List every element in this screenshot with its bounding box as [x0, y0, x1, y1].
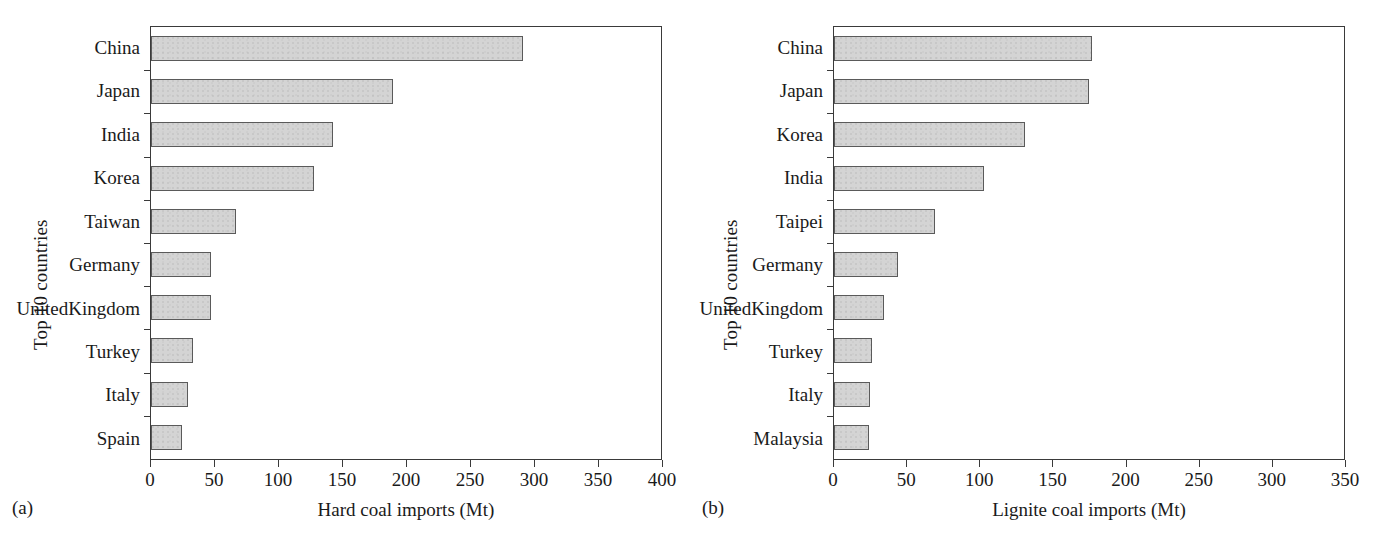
bar-row [834, 416, 1344, 459]
panel-a-bars [151, 27, 661, 459]
bar-india [151, 122, 333, 147]
x-axis-tick [1052, 460, 1053, 467]
figure-two-panel-bar-charts: Top 10 countries ChinaJapanIndiaKoreaTai… [0, 0, 1387, 550]
x-axis-tick-label: 0 [828, 469, 838, 491]
bar-row [151, 243, 661, 286]
category-label-japan: Japan [0, 69, 150, 112]
x-axis-tick-label: 250 [1184, 469, 1213, 491]
category-label-malaysia: Malaysia [683, 417, 833, 460]
x-axis-tick [833, 460, 834, 467]
x-axis-tick-label: 250 [456, 469, 485, 491]
x-axis-tick [278, 460, 279, 467]
bar-row [834, 70, 1344, 113]
panel-b-x-axis-title: Lignite coal imports (Mt) [833, 499, 1345, 521]
y-axis-tick [144, 373, 151, 374]
category-label-korea: Korea [683, 113, 833, 156]
bar-japan [151, 79, 393, 104]
x-axis-tick-label: 0 [145, 469, 155, 491]
bar-row [151, 157, 661, 200]
x-axis-tick-label: 400 [648, 469, 677, 491]
y-axis-tick [827, 113, 834, 114]
bar-japan [834, 79, 1089, 104]
y-axis-tick [827, 286, 834, 287]
x-axis-tick [470, 460, 471, 467]
bar-row [834, 200, 1344, 243]
bar-germany [151, 252, 211, 277]
y-axis-tick [144, 157, 151, 158]
panel-a-x-axis-title: Hard coal imports (Mt) [150, 499, 662, 521]
category-label-china: China [0, 26, 150, 69]
bar-china [834, 36, 1092, 61]
bar-korea [834, 122, 1025, 147]
y-axis-tick [827, 329, 834, 330]
bar-row [151, 373, 661, 416]
bar-row [151, 70, 661, 113]
x-axis-tick-label: 200 [392, 469, 421, 491]
y-axis-tick [827, 157, 834, 158]
bar-united-kingdom [151, 295, 211, 320]
x-axis-tick [1345, 460, 1346, 467]
category-label-united-kingdom: UnitedKingdom [0, 286, 150, 329]
category-label-taiwan: Taiwan [0, 200, 150, 243]
panel-a-x-axis-ticks: 050100150200250300350400 [150, 460, 662, 500]
x-axis-tick [406, 460, 407, 467]
category-label-japan: Japan [683, 69, 833, 112]
bar-taiwan [151, 209, 236, 234]
category-label-spain: Spain [0, 417, 150, 460]
category-label-turkey: Turkey [683, 330, 833, 373]
category-label-china: China [683, 26, 833, 69]
panel-b-x-axis-ticks: 050100150200250300350 [833, 460, 1345, 500]
y-axis-tick [144, 416, 151, 417]
category-label-korea: Korea [0, 156, 150, 199]
bar-turkey [151, 338, 193, 363]
x-axis-tick [1199, 460, 1200, 467]
x-axis-tick-label: 300 [520, 469, 549, 491]
bar-row [151, 113, 661, 156]
y-axis-tick [827, 373, 834, 374]
x-axis-tick-label: 350 [1331, 469, 1360, 491]
bar-row [834, 329, 1344, 372]
panel-a-plot-area [150, 26, 662, 460]
panel-a-tag: (a) [12, 497, 33, 519]
bar-row [834, 113, 1344, 156]
bar-row [834, 243, 1344, 286]
bar-turkey [834, 338, 872, 363]
y-axis-tick [144, 329, 151, 330]
bar-korea [151, 166, 314, 191]
panel-a-category-labels: ChinaJapanIndiaKoreaTaiwanGermanyUnitedK… [0, 26, 150, 460]
x-axis-tick-label: 150 [328, 469, 357, 491]
category-label-turkey: Turkey [0, 330, 150, 373]
y-axis-tick [144, 70, 151, 71]
y-axis-tick [144, 243, 151, 244]
category-label-india: India [683, 156, 833, 199]
bar-row [151, 416, 661, 459]
x-axis-tick [979, 460, 980, 467]
y-axis-tick [827, 200, 834, 201]
y-axis-tick [827, 416, 834, 417]
x-axis-tick-label: 150 [1038, 469, 1067, 491]
x-axis-tick [1126, 460, 1127, 467]
bar-india [834, 166, 984, 191]
bar-china [151, 36, 523, 61]
bar-italy [834, 382, 870, 407]
x-axis-tick-label: 300 [1258, 469, 1287, 491]
category-label-india: India [0, 113, 150, 156]
y-axis-tick [144, 200, 151, 201]
x-axis-tick-label: 100 [965, 469, 994, 491]
bar-germany [834, 252, 898, 277]
category-label-italy: Italy [0, 373, 150, 416]
category-label-italy: Italy [683, 373, 833, 416]
bar-row [151, 27, 661, 70]
x-axis-tick-label: 50 [897, 469, 916, 491]
y-axis-tick [827, 70, 834, 71]
y-axis-tick [144, 113, 151, 114]
panel-b-lignite-coal-imports: Top 10 countries ChinaJapanKoreaIndiaTai… [694, 0, 1387, 550]
x-axis-tick [662, 460, 663, 467]
x-axis-tick [1272, 460, 1273, 467]
category-label-germany: Germany [0, 243, 150, 286]
bar-row [151, 200, 661, 243]
x-axis-tick-label: 100 [264, 469, 293, 491]
bar-row [834, 157, 1344, 200]
bar-united-kingdom [834, 295, 884, 320]
bar-malaysia [834, 425, 869, 450]
